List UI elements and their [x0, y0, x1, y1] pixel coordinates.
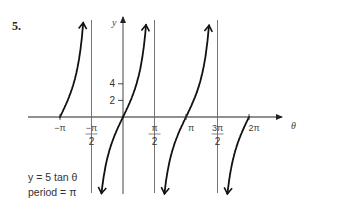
asymptote-label-numerator: π [151, 123, 157, 133]
x-tick-label: −π [54, 123, 65, 133]
period-label: period = π [28, 186, 76, 198]
problem-number: 5. [12, 19, 21, 33]
asymptote-label-denominator: 2 [152, 136, 158, 147]
asymptote-label-numerator: 3π [212, 123, 223, 133]
equation-label: y = 5 tan θ [28, 171, 77, 183]
tick-labels: −π2π23π2−ππ2π24 [54, 78, 259, 147]
asymptote-label-denominator: 2 [89, 136, 95, 147]
asymptote-label-denominator: 2 [215, 136, 221, 147]
tan-branch-4 [227, 117, 249, 194]
x-axis-label: θ [291, 120, 296, 131]
y-tick-label: 4 [109, 78, 115, 89]
tan-branch-2 [102, 25, 147, 193]
axes: θy [28, 17, 296, 194]
tan-branch-1 [60, 23, 83, 117]
asymptotes [91, 20, 217, 193]
x-tick-label: 2π [248, 123, 259, 133]
y-tick-label: 2 [109, 95, 115, 106]
tan-branch-3 [165, 25, 210, 193]
asymptote-label-numerator: −π [86, 123, 97, 133]
y-axis-label: y [111, 17, 117, 28]
tangent-graph: 5. θy −π2π23π2−ππ2π24 y = 5 tan θ period… [0, 0, 342, 211]
x-tick-label: π [188, 123, 194, 133]
